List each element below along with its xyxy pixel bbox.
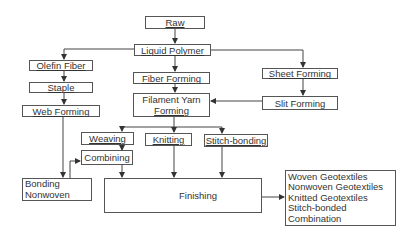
node-slit-forming-label: Slit Forming	[275, 98, 326, 109]
node-bonding-nonwoven: Bonding Nonwoven	[22, 178, 92, 201]
node-staple: Staple	[29, 82, 93, 93]
node-stitch-bonding: Stitch-bonding	[204, 134, 268, 147]
node-filament-yarn-forming: Filament Yarn Forming	[133, 93, 210, 117]
node-liquid-polymer: Liquid Polymer	[134, 44, 211, 56]
node-combining-label: Combining	[84, 152, 129, 163]
node-slit-forming: Slit Forming	[262, 96, 338, 110]
node-weaving: Weaving	[81, 132, 134, 145]
node-web-forming: Web Forming	[22, 105, 100, 117]
node-web-forming-label: Web Forming	[33, 106, 90, 117]
node-staple-label: Staple	[48, 82, 75, 93]
node-stitch-bonding-label: Stitch-bonding	[206, 135, 267, 146]
node-products: Woven Geotextiles Nonwoven Geotextiles K…	[285, 170, 396, 226]
node-filament-yarn-line2: Forming	[154, 105, 189, 116]
node-knitting: Knitting	[145, 133, 192, 146]
node-olefin-fiber: Olefin Fiber	[29, 60, 93, 71]
node-raw-label: Raw	[165, 17, 184, 28]
node-olefin-fiber-label: Olefin Fiber	[36, 60, 85, 71]
node-raw: Raw	[145, 16, 205, 29]
node-sheet-forming-label: Sheet Forming	[269, 68, 331, 79]
node-filament-yarn-line1: Filament Yarn	[142, 94, 200, 105]
node-fiber-forming: Fiber Forming	[133, 72, 210, 84]
product-combination: Combination	[288, 214, 341, 225]
node-sheet-forming: Sheet Forming	[262, 68, 338, 79]
edge-bonding-combining	[70, 161, 80, 178]
node-bonding-line2: Nonwoven	[25, 190, 70, 201]
edge-liquid-polymer-sheet-forming	[210, 50, 303, 67]
node-weaving-label: Weaving	[89, 133, 126, 144]
node-finishing: Finishing	[104, 178, 262, 213]
edge-liquid-polymer-olefin-fiber	[64, 49, 134, 59]
node-bonding-line1: Bonding	[25, 179, 60, 190]
node-fiber-forming-label: Fiber Forming	[142, 73, 201, 84]
node-knitting-label: Knitting	[153, 134, 185, 145]
node-finishing-label: Finishing	[179, 190, 217, 201]
node-liquid-polymer-label: Liquid Polymer	[141, 45, 204, 56]
node-combining: Combining	[81, 150, 133, 165]
